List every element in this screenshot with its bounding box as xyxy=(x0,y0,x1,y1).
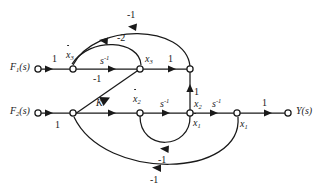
node-label-x2: x2 xyxy=(194,99,202,109)
gain-label-top-inner-feedback: -2 xyxy=(117,33,125,43)
node-x2[interactable] xyxy=(187,110,193,116)
node-f1-source[interactable] xyxy=(35,66,41,72)
node-y-output[interactable] xyxy=(285,110,291,116)
gain-label-vertical-edge: 1 xyxy=(194,87,199,97)
arrowhead-x1-edge xyxy=(264,109,272,116)
gain-label-x2dot-to-x2: s-1 xyxy=(160,99,169,109)
gain-label-inner-bottom-feedback: -1 xyxy=(158,155,166,165)
gain-label-x3-to-sum3: 1 xyxy=(168,54,173,64)
node-label-x1dot: x1 xyxy=(193,118,201,128)
gain-label-outer-bottom-feedback: -1 xyxy=(150,175,158,185)
arrowhead-x3-edge xyxy=(168,65,176,72)
gain-label-x1-to-y: 1 xyxy=(262,98,267,108)
arrowhead-x2dot-edge xyxy=(162,109,170,116)
arrowhead-f2-edge xyxy=(45,109,53,116)
arrowhead-x2-edge xyxy=(210,109,218,116)
input-label-f1: F1(s) xyxy=(10,62,30,72)
gain-label-diagonal-feedback: -1 xyxy=(93,74,101,84)
input-label-f2: F2(s) xyxy=(10,106,30,116)
arrowhead-x3dot-edge xyxy=(108,65,116,72)
node-x3[interactable] xyxy=(137,66,143,72)
node-sum3[interactable] xyxy=(187,66,193,72)
arrowhead-K-edge xyxy=(108,109,116,116)
arrowhead-inner-bottom-arc xyxy=(160,146,169,154)
node-sum-k[interactable] xyxy=(70,110,76,116)
node-f2-source[interactable] xyxy=(35,110,41,116)
gain-label-x3dot-to-x3: s-1 xyxy=(100,56,109,66)
gain-label-x2-to-x1: s-1 xyxy=(212,99,221,109)
arrowhead-f1-edge xyxy=(45,65,53,72)
edge-x3-diagonal-to-sumK xyxy=(75,69,140,114)
output-label-y: Y(s) xyxy=(296,106,312,116)
gain-label-f1-to-x3dot: 1 xyxy=(52,54,57,64)
signal-flow-graph-figure: F1(s) F2(s) Y(s) 1 x3 s-1 x3 1 -1 -2 -1 … xyxy=(0,0,327,196)
node-label-x3: x3 xyxy=(145,54,153,64)
arrowhead-outer-bottom-arc xyxy=(152,165,161,173)
node-x1[interactable] xyxy=(234,110,240,116)
node-x2dot[interactable] xyxy=(137,110,143,116)
node-label-x2dot: x2 xyxy=(133,94,141,104)
gain-label-k: K xyxy=(96,98,103,108)
gain-label-top-outer-feedback: -1 xyxy=(127,10,135,20)
arrowhead-vertical-edge xyxy=(186,84,193,92)
node-label-x3dot: x3 xyxy=(66,50,74,60)
arc-inner-bottom-feedback xyxy=(140,116,190,142)
node-label-x1: x1 xyxy=(240,119,248,129)
gain-label-f2-to-sumk: 1 xyxy=(55,120,60,130)
arrowhead-top-outer-arc xyxy=(128,24,137,32)
node-x3dot[interactable] xyxy=(70,66,76,72)
